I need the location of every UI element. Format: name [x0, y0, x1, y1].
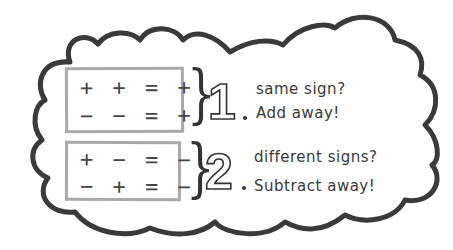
- rule-1-number-dot: [243, 116, 247, 120]
- rule-1-number: 1: [208, 77, 236, 127]
- rule-2-equation-1: + − = −: [80, 148, 194, 172]
- rule-2-equation-2: − + = −: [80, 175, 194, 199]
- rule-2-equations-box: + − = − − + = −: [65, 141, 181, 201]
- rule-1-equations-box: + + = + − − = +: [65, 67, 184, 134]
- rule-2-action: Subtract away!: [254, 177, 375, 195]
- rule-1-equation-2: − − = +: [80, 104, 194, 129]
- rule-1-question: same sign?: [256, 80, 346, 98]
- rule-2-number: 2: [205, 147, 233, 197]
- rule-2-number-dot: [242, 186, 246, 190]
- rule-1-action: Add away!: [256, 104, 340, 122]
- rule-2-question: different signs?: [254, 148, 378, 166]
- rule-1-equation-1: + + = +: [80, 76, 194, 101]
